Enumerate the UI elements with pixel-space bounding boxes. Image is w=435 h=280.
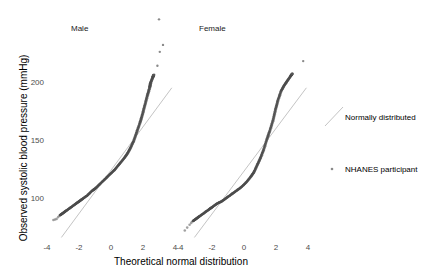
legend-label-normal: Normally distributed — [345, 113, 416, 122]
x-tick-label: 0 — [109, 243, 114, 252]
data-point — [291, 73, 294, 76]
legend-line-swatch — [325, 107, 343, 126]
x-axis-title: Theoretical normal distribution — [114, 256, 248, 267]
data-point — [184, 229, 187, 232]
x-tick-label: -2 — [208, 243, 216, 252]
panel-title: Female — [199, 24, 226, 33]
outlier-point — [162, 44, 164, 46]
x-tick-label: -2 — [75, 243, 83, 252]
x-tick-label: 2 — [141, 243, 146, 252]
normal-reference-line — [194, 88, 306, 238]
outlier-point — [302, 60, 304, 62]
data-point — [186, 226, 189, 229]
x-tick-label: -4 — [176, 243, 184, 252]
y-tick-label: 200 — [31, 78, 45, 87]
legend-point-swatch — [331, 168, 334, 171]
normal-reference-line — [61, 88, 171, 238]
y-tick-label: 100 — [31, 194, 45, 203]
panel-male: Male-4-2024 — [43, 18, 177, 252]
qq-plot-chart: 100150200 Male-4-2024 Female-4-2024 Obse… — [0, 0, 435, 280]
x-tick-label: 0 — [242, 243, 247, 252]
x-tick-label: 2 — [274, 243, 279, 252]
x-tick-label: 4 — [306, 243, 311, 252]
y-axis-title: Observed systolic blood pressure (mmHg) — [18, 55, 29, 242]
outlier-point — [156, 65, 158, 67]
outlier-point — [159, 51, 161, 53]
panel-title: Male — [71, 24, 89, 33]
legend-label-participant: NHANES participant — [345, 165, 418, 174]
legend: Normally distributed NHANES participant — [325, 107, 418, 174]
y-tick-label: 150 — [31, 136, 45, 145]
panel-female: Female-4-2024 — [176, 24, 310, 252]
y-axis: 100150200 — [31, 78, 45, 203]
outlier-point — [158, 18, 160, 20]
x-tick-label: -4 — [43, 243, 51, 252]
data-point — [152, 74, 155, 77]
